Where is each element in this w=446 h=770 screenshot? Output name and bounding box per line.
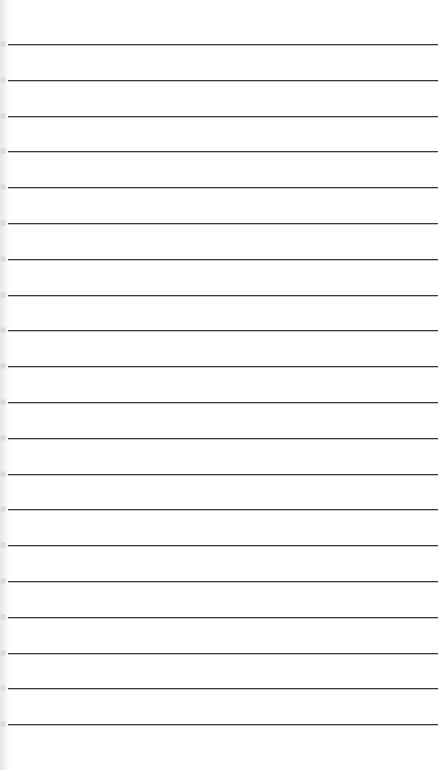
margin-dot	[0, 220, 6, 226]
margin-dot	[0, 614, 6, 620]
ruled-line	[8, 653, 438, 654]
margin-dot	[0, 327, 6, 333]
margin-dot	[0, 542, 6, 548]
margin-dot	[0, 578, 6, 584]
ruled-line	[8, 366, 438, 367]
margin-dot	[0, 685, 6, 691]
margin-dot	[0, 256, 6, 262]
ruled-line	[8, 187, 438, 188]
margin-dot	[0, 721, 6, 727]
ruled-line	[8, 116, 438, 117]
ruled-line	[8, 474, 438, 475]
margin-dot	[0, 113, 6, 119]
ruled-line	[8, 259, 438, 260]
margin-dot	[0, 148, 6, 154]
margin-dot	[0, 363, 6, 369]
ruled-line	[8, 223, 438, 224]
margin-dot	[0, 435, 6, 441]
ruled-line	[8, 581, 438, 582]
ruled-line	[8, 295, 438, 296]
ruled-line	[8, 80, 438, 81]
ruled-line	[8, 509, 438, 510]
ruled-line	[8, 44, 438, 45]
ruled-line	[8, 151, 438, 152]
margin-dot	[0, 650, 6, 656]
ruled-line	[8, 545, 438, 546]
margin-dot	[0, 471, 6, 477]
margin-dot	[0, 399, 6, 405]
ruled-line	[8, 617, 438, 618]
ruled-line	[8, 724, 438, 725]
margin-dot	[0, 506, 6, 512]
margin-dot	[0, 292, 6, 298]
ruled-line	[8, 330, 438, 331]
ruled-line	[8, 438, 438, 439]
margin-dot	[0, 41, 6, 47]
ruled-line	[8, 402, 438, 403]
margin-dot	[0, 77, 6, 83]
margin-dot	[0, 184, 6, 190]
ruled-line	[8, 688, 438, 689]
